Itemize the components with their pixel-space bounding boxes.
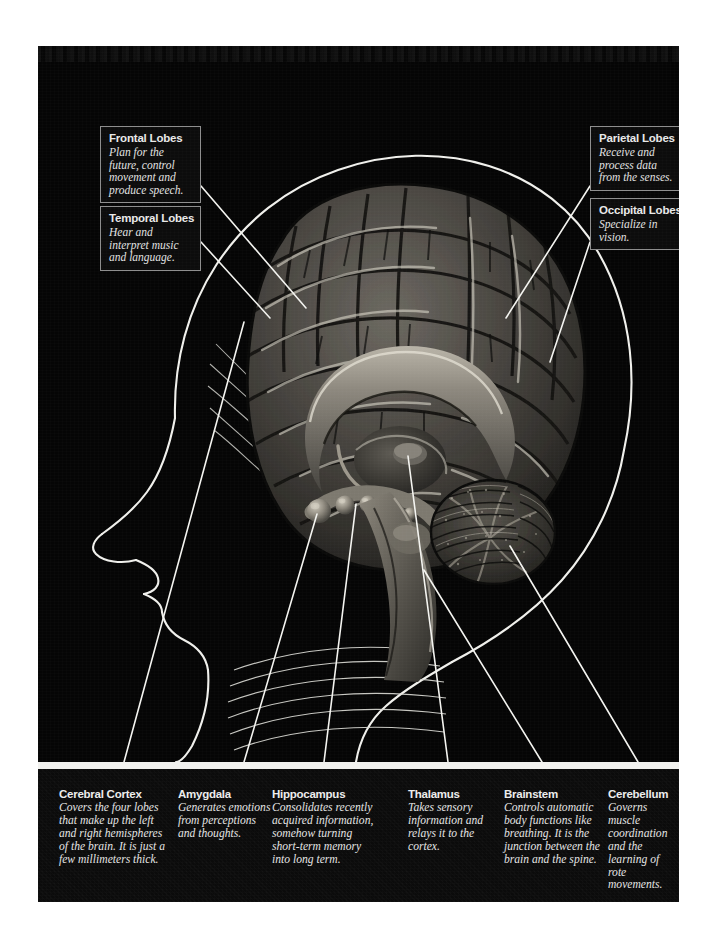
caption-strip: Cerebral Cortex Covers the four lobes th… <box>38 769 679 902</box>
callout-body: Receive and process data from the senses… <box>599 146 676 184</box>
callout-body: Plan for the future, control movement an… <box>109 146 193 196</box>
caption-cerebral-cortex: Cerebral Cortex Covers the four lobes th… <box>59 788 167 867</box>
callout-temporal-lobes: Temporal Lobes Hear and interpret music … <box>100 206 201 271</box>
caption-hippocampus: Hippocampus Consolidates recently acquir… <box>272 788 376 867</box>
caption-heading: Cerebral Cortex <box>59 788 167 801</box>
caption-heading: Brainstem <box>504 788 602 801</box>
callout-heading: Temporal Lobes <box>109 212 193 225</box>
caption-body: Covers the four lobes that make up the l… <box>59 802 167 867</box>
caption-cerebellum: Cerebellum Governs muscle coordination a… <box>608 788 679 892</box>
caption-body: Consolidates recently acquired informati… <box>272 802 376 867</box>
callout-body: Specialize in vision. <box>599 218 676 243</box>
illustration-panel: Frontal Lobes Plan for the future, contr… <box>38 46 679 902</box>
caption-heading: Cerebellum <box>608 788 679 801</box>
callout-heading: Frontal Lobes <box>109 132 193 145</box>
callout-occipital-lobes: Occipital Lobes Specialize in vision. <box>590 198 679 250</box>
caption-thalamus: Thalamus Takes sensory information and r… <box>408 788 498 854</box>
caption-divider-rule <box>38 762 679 769</box>
cerebellum <box>430 480 555 586</box>
caption-amygdala: Amygdala Generates emotions from percept… <box>178 788 274 841</box>
callout-frontal-lobes: Frontal Lobes Plan for the future, contr… <box>100 126 201 203</box>
caption-body: Generates emotions from perceptions and … <box>178 802 274 841</box>
callout-heading: Occipital Lobes <box>599 204 676 217</box>
caption-heading: Thalamus <box>408 788 498 801</box>
caption-heading: Amygdala <box>178 788 274 801</box>
caption-body: Controls automatic body functions like b… <box>504 802 602 867</box>
callout-heading: Parietal Lobes <box>599 132 676 145</box>
figure-page: Frontal Lobes Plan for the future, contr… <box>0 0 718 943</box>
caption-body: Takes sensory information and relays it … <box>408 802 498 854</box>
caption-body: Governs muscle coordination and the lear… <box>608 802 679 892</box>
caption-heading: Hippocampus <box>272 788 376 801</box>
callout-body: Hear and interpret music and language. <box>109 226 193 264</box>
caption-brainstem: Brainstem Controls automatic body functi… <box>504 788 602 867</box>
callout-parietal-lobes: Parietal Lobes Receive and process data … <box>590 126 679 191</box>
